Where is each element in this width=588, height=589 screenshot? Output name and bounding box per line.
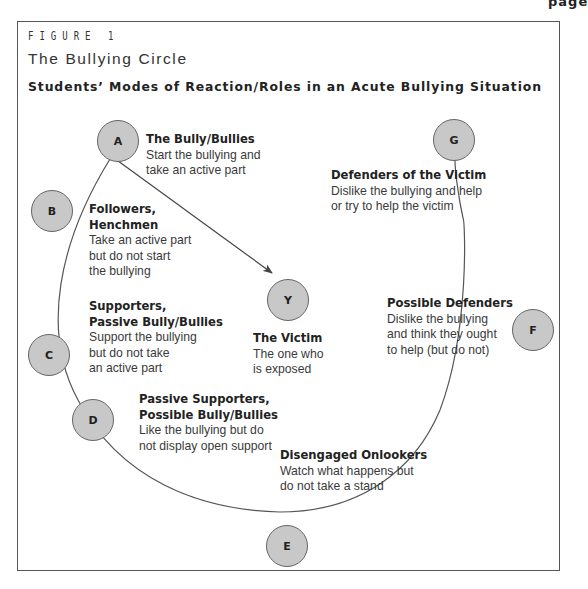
role-g-title: Defenders of the Victim [331, 168, 486, 184]
role-a-bully: The Bully/Bullies Start the bullying and… [146, 132, 261, 179]
node-e-letter: E [283, 540, 291, 553]
role-a-title: The Bully/Bullies [146, 132, 261, 148]
node-g: G [434, 120, 475, 161]
node-c: C [29, 335, 70, 376]
node-g-letter: G [449, 134, 458, 147]
node-d-letter: D [88, 414, 97, 427]
role-g-description: Dislike the bullying and help or try to … [331, 184, 486, 215]
role-e-onlookers: Disengaged Onlookers Watch what happens … [280, 448, 427, 495]
node-d: D [73, 400, 114, 441]
role-b-followers: Followers, Henchmen Take an active part … [89, 202, 191, 280]
node-a: A [98, 121, 139, 162]
role-g-defenders: Defenders of the Victim Dislike the bull… [331, 168, 486, 215]
node-f-letter: F [529, 324, 537, 337]
node-c-letter: C [45, 349, 53, 362]
role-d-passive-supporters: Passive Supporters, Possible Bully/Bulli… [139, 392, 278, 454]
node-f: F [513, 310, 554, 351]
role-y-description: The one who is exposed [253, 347, 323, 378]
role-e-title: Disengaged Onlookers [280, 448, 427, 464]
role-c-description: Support the bullying but do not take an … [89, 330, 223, 377]
role-c-supporters: Supporters, Passive Bully/Bullies Suppor… [89, 299, 223, 377]
node-a-letter: A [114, 135, 123, 148]
role-d-description: Like the bullying but do not display ope… [139, 423, 278, 454]
role-d-title: Passive Supporters, Possible Bully/Bulli… [139, 392, 278, 423]
role-a-description: Start the bullying and take an active pa… [146, 148, 261, 179]
node-b: B [32, 191, 73, 232]
role-f-title: Possible Defenders [387, 296, 513, 312]
role-e-description: Watch what happens but do not take a sta… [280, 464, 427, 495]
role-b-title: Followers, Henchmen [89, 202, 191, 233]
role-y-victim: The Victim The one who is exposed [253, 331, 323, 378]
node-e: E [267, 526, 308, 567]
role-f-possible-defenders: Possible Defenders Dislike the bullying … [387, 296, 513, 358]
node-y: Y [268, 280, 309, 321]
role-c-title: Supporters, Passive Bully/Bullies [89, 299, 223, 330]
node-b-letter: B [48, 205, 56, 218]
role-y-title: The Victim [253, 331, 323, 347]
node-y-letter: Y [283, 294, 293, 307]
role-f-description: Dislike the bullying and think they ough… [387, 312, 513, 359]
role-b-description: Take an active part but do not start the… [89, 233, 191, 280]
